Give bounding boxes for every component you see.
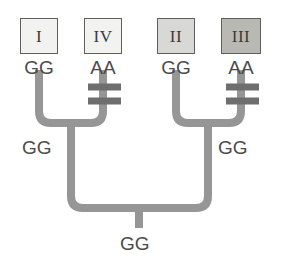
taxon-box-i[interactable]: I <box>20 18 58 54</box>
genotype-label-node-right: GG <box>218 138 248 157</box>
genotype-label-node-left: GG <box>22 138 52 157</box>
genotype-label-node-root: GG <box>120 234 150 253</box>
genotype-label-taxon-iv: AA <box>90 58 115 77</box>
phylogenetic-tree-diagram: I IV II III GG AA GG AA GG GG GG <box>0 0 283 266</box>
root-join-branch <box>71 190 208 208</box>
taxon-box-iii[interactable]: III <box>221 18 261 54</box>
taxon-box-ii[interactable]: II <box>157 18 195 54</box>
genotype-label-taxon-iii: AA <box>228 58 253 77</box>
taxon-label-iii: III <box>232 28 250 45</box>
genotype-label-taxon-ii: GG <box>161 58 191 77</box>
taxon-label-iv: IV <box>94 28 113 45</box>
taxon-label-i: I <box>36 28 42 45</box>
taxon-box-iv[interactable]: IV <box>84 18 122 54</box>
taxon-label-ii: II <box>170 28 182 45</box>
genotype-label-taxon-i: GG <box>24 58 54 77</box>
